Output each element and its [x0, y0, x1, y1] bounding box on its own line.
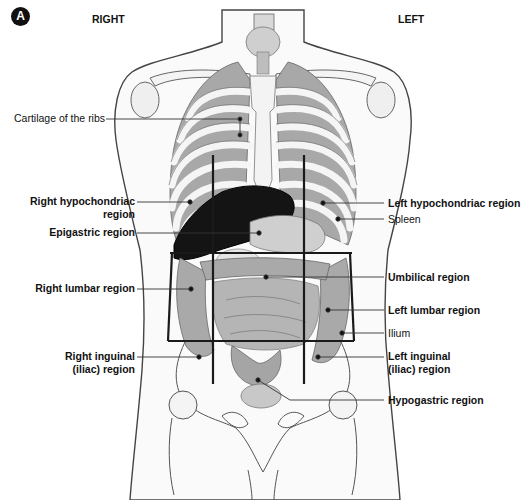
label-left-inguinal-line2: (iliac) region: [388, 363, 450, 376]
abdominal-regions-diagram: [0, 0, 527, 500]
label-left-inguinal-line1: Left inguinal: [388, 350, 450, 363]
label-spleen: Spleen: [388, 213, 421, 226]
label-ilium: Ilium: [388, 327, 410, 340]
label-cartilage-of-ribs: Cartilage of the ribs: [14, 112, 105, 125]
label-hypogastric-region: Hypogastric region: [388, 394, 484, 407]
label-left-hypochondriac-region: Left hypochondriac region: [388, 197, 520, 210]
label-left-inguinal-region: Left inguinal (iliac) region: [388, 350, 450, 376]
label-right-inguinal-line1: Right inguinal: [65, 350, 135, 363]
bladder: [241, 384, 281, 408]
label-right-inguinal-region: Right inguinal (iliac) region: [65, 350, 135, 376]
label-right-lumbar-region: Right lumbar region: [35, 282, 135, 295]
label-right-hypochondriac-line2: region: [30, 208, 135, 221]
label-right-hypochondriac-line1: Right hypochondriac: [30, 195, 135, 208]
label-umbilical-region: Umbilical region: [388, 271, 470, 284]
panel-letter-badge: A: [11, 7, 30, 26]
side-label-right: RIGHT: [92, 13, 125, 25]
side-label-left: LEFT: [398, 13, 424, 25]
label-left-lumbar-region: Left lumbar region: [388, 304, 480, 317]
label-right-hypochondriac-region: Right hypochondriac region: [30, 195, 135, 221]
label-epigastric-region: Epigastric region: [49, 226, 135, 239]
label-right-inguinal-line2: (iliac) region: [65, 363, 135, 376]
